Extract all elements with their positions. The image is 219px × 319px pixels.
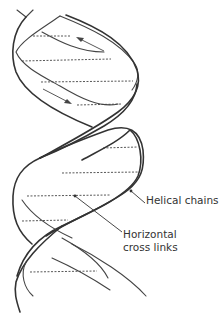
back-strand-b bbox=[60, 16, 138, 90]
helix-strand-lower-left bbox=[13, 158, 40, 244]
cross-links-label-line2: cross links bbox=[123, 241, 178, 254]
cross-link-9 bbox=[30, 271, 97, 272]
back-strand-a bbox=[42, 32, 104, 52]
cross-link-3 bbox=[41, 81, 133, 82]
helix-strand-mid-outer bbox=[40, 128, 143, 236]
helix-strand-tail-inner bbox=[23, 262, 33, 296]
cross-link-5 bbox=[103, 147, 138, 148]
cross-link-8 bbox=[22, 220, 68, 221]
helical-chains-label: Helical chains bbox=[146, 194, 219, 207]
arrow-lower bbox=[43, 89, 72, 104]
cross-links-label: Horizontal cross links bbox=[123, 228, 178, 254]
strand-top-stub-b bbox=[26, 10, 33, 17]
helix-strand-left-outer bbox=[13, 17, 92, 127]
double-helix-figure bbox=[0, 0, 219, 319]
strand-top-stub-a bbox=[17, 10, 26, 17]
helical-chains bbox=[13, 10, 146, 312]
helix-strand-tail-outer bbox=[15, 226, 62, 312]
cross-link-6 bbox=[62, 172, 140, 173]
cross-link-2 bbox=[22, 59, 111, 61]
lower-strand-c bbox=[52, 258, 110, 290]
helical-chains-leader bbox=[131, 191, 145, 203]
helix-strand-mid-inner bbox=[17, 130, 141, 276]
cross-links-leader bbox=[75, 196, 122, 232]
cross-links-label-line1: Horizontal bbox=[123, 228, 178, 241]
annotation-leaders bbox=[74, 190, 145, 232]
back-strand-c bbox=[22, 200, 72, 238]
lower-strand-a bbox=[62, 238, 108, 278]
cross-link-7 bbox=[27, 195, 110, 196]
